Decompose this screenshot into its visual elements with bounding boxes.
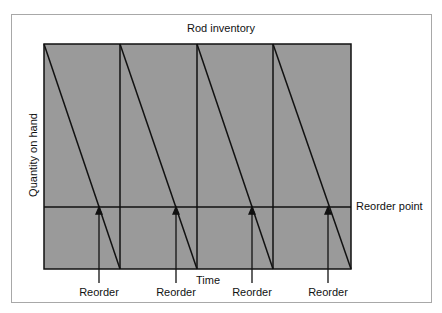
reorder-label-1: Reorder xyxy=(79,286,119,298)
y-axis-label: Quantity on hand xyxy=(27,113,39,197)
chart-title: Rod inventory xyxy=(0,22,442,34)
x-axis-label: Time xyxy=(196,274,220,286)
reorder-point-label: Reorder point xyxy=(356,200,423,212)
inventory-chart xyxy=(0,0,442,313)
reorder-label-4: Reorder xyxy=(308,286,348,298)
reorder-label-3: Reorder xyxy=(232,286,272,298)
reorder-label-2: Reorder xyxy=(156,286,196,298)
